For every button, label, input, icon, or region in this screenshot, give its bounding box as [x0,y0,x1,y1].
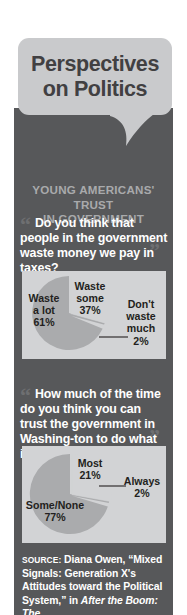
title-speech-bubble: Perspectives on Politics [18,38,172,148]
pie-chart-waste-taxes: Waste a lot 61% Waste some 37% Don't was… [22,271,166,359]
pie-chart-trust-government: Most 21% Always 2% Some/None 77% [22,446,166,543]
pie-1-label-waste-some: Waste some 37% [66,280,114,317]
source-note: SOURCE: Diana Owen, “Mixed Signals: Gene… [22,553,168,615]
question-1: Do you think that people in the governme… [20,216,169,276]
pie-2-label-always: Always 2% [120,475,164,499]
question-1-text: Do you think that people in the governme… [20,216,167,275]
page-title-line-2: on Politics [43,77,147,102]
pie-1-label-waste-a-lot: Waste a lot 61% [20,292,68,329]
perspectives-on-politics-infographic: Perspectives on Politics YOUNG AMERICANS… [0,0,187,615]
pie-2-label-some-none: Some/None 77% [24,499,86,523]
page-title-line-1: Perspectives [31,52,159,77]
source-label: SOURCE: [22,555,61,565]
page-title: Perspectives on Politics [18,38,172,115]
pie-2-label-most: Most 21% [66,457,114,481]
section-heading-line-1: YOUNG AMERICANS' TRUST [14,183,173,212]
pie-1-label-dont-waste-much: Don't waste much 2% [118,298,164,347]
